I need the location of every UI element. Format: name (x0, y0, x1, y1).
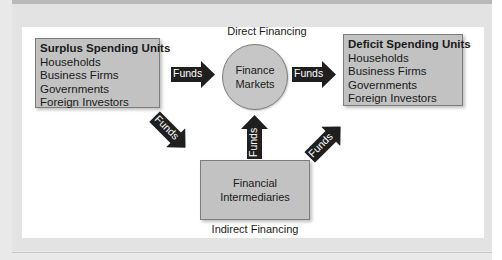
right-margin (492, 0, 502, 260)
indirect-financing-label: Indirect Financing (200, 223, 310, 235)
deficit-item: Foreign Investors (348, 92, 462, 106)
surplus-item: Governments (40, 83, 159, 97)
intermediaries-line1: Financial (233, 176, 277, 190)
funds-label: Funds (294, 67, 323, 79)
funds-arrow-right-icon: Funds (292, 61, 336, 88)
markets-line2: Markets (235, 77, 274, 91)
deficit-item: Governments (348, 79, 462, 93)
surplus-title: Surplus Spending Units (40, 42, 159, 56)
funds-label: Funds (247, 128, 259, 157)
funds-label: Funds (173, 67, 202, 79)
financial-intermediaries-box: Financial Intermediaries (200, 160, 310, 220)
surplus-spending-units-box: Surplus Spending Units Households Busine… (35, 38, 160, 108)
bottom-rule (12, 252, 492, 253)
surplus-item: Foreign Investors (40, 96, 159, 110)
deficit-title: Deficit Spending Units (348, 38, 462, 52)
deficit-spending-units-box: Deficit Spending Units Households Busine… (343, 34, 463, 106)
funds-arrow-up-icon: Funds (241, 115, 268, 159)
markets-line1: Finance (235, 63, 274, 77)
deficit-item: Households (348, 52, 462, 66)
direct-financing-label: Direct Financing (212, 25, 322, 37)
surplus-item: Households (40, 56, 159, 70)
intermediaries-line2: Intermediaries (220, 190, 290, 204)
deficit-item: Business Firms (348, 65, 462, 79)
funds-arrow-right-icon: Funds (171, 61, 215, 88)
finance-markets-node: Finance Markets (222, 44, 288, 110)
surplus-item: Business Firms (40, 69, 159, 83)
